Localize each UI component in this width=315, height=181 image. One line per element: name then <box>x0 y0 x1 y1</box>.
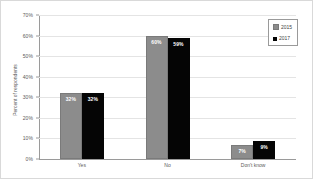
y-axis-tick-label: 50% <box>23 53 33 59</box>
x-axis-category-label: Yes <box>78 162 86 168</box>
y-axis-tick-label: 10% <box>23 135 33 141</box>
bar-value-label: 59% <box>169 42 189 47</box>
bar[interactable]: 9% <box>253 141 275 160</box>
chart-legend: 20152017 <box>268 19 298 46</box>
legend-swatch-icon <box>273 37 277 41</box>
bar-value-label: 32% <box>83 97 103 102</box>
plot-area: 32%32%60%59%7%9% <box>39 15 296 159</box>
y-axis-tick-label: 20% <box>23 115 33 121</box>
chart-container: Percent of respondents 0%10%20%30%40%50%… <box>0 0 313 179</box>
x-axis-category-label: No <box>164 162 170 168</box>
y-axis-tick-label: 0% <box>26 156 33 162</box>
y-axis-tick-label: 70% <box>23 12 33 18</box>
legend-label: 2015 <box>281 25 292 30</box>
y-axis-tick-label: 60% <box>23 33 33 39</box>
bar-value-label: 60% <box>147 40 167 45</box>
legend-swatch-icon <box>273 24 279 30</box>
bar[interactable]: 32% <box>60 93 82 159</box>
bar[interactable]: 7% <box>231 145 253 159</box>
bar[interactable]: 60% <box>146 36 168 159</box>
legend-label: 2017 <box>279 36 290 41</box>
x-axis-category-labels: YesNoDon't know <box>39 162 296 174</box>
bar-value-label: 9% <box>254 145 274 150</box>
bar-group: 7%9% <box>230 141 276 160</box>
bar[interactable]: 59% <box>168 38 190 159</box>
y-axis-tick-label: 40% <box>23 74 33 80</box>
legend-item[interactable]: 2017 <box>273 36 292 41</box>
bar-value-label: 32% <box>61 97 81 102</box>
y-axis-tick-label: 30% <box>23 94 33 100</box>
bar-value-label: 7% <box>232 149 252 154</box>
gridline <box>39 15 296 16</box>
gridline <box>39 159 296 160</box>
bar[interactable]: 32% <box>82 93 104 159</box>
bar-group: 60%59% <box>145 36 191 159</box>
legend-item[interactable]: 2015 <box>273 24 292 30</box>
bar-group: 32%32% <box>59 93 105 159</box>
x-axis-category-label: Don't know <box>241 162 266 168</box>
y-axis-tick-labels: 0%10%20%30%40%50%60%70% <box>1 15 37 159</box>
